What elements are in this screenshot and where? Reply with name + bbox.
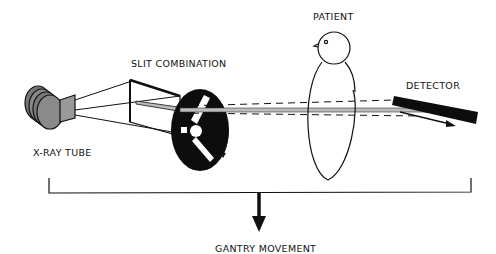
gantry-bracket (49, 178, 471, 193)
rotating-disk-icon (171, 89, 229, 171)
patient-label: PATIENT (313, 11, 354, 22)
slit-combination-label: SLIT COMBINATION (131, 58, 226, 69)
gantry-movement-label: GANTRY MOVEMENT (215, 243, 316, 254)
patient-figure (308, 32, 355, 180)
x-ray-tube-icon (25, 86, 75, 129)
gantry-arrow-icon (252, 193, 266, 232)
diagram-canvas (0, 0, 496, 254)
x-ray-tube-label: X-RAY TUBE (33, 147, 92, 158)
detector-label: DETECTOR (406, 80, 460, 91)
